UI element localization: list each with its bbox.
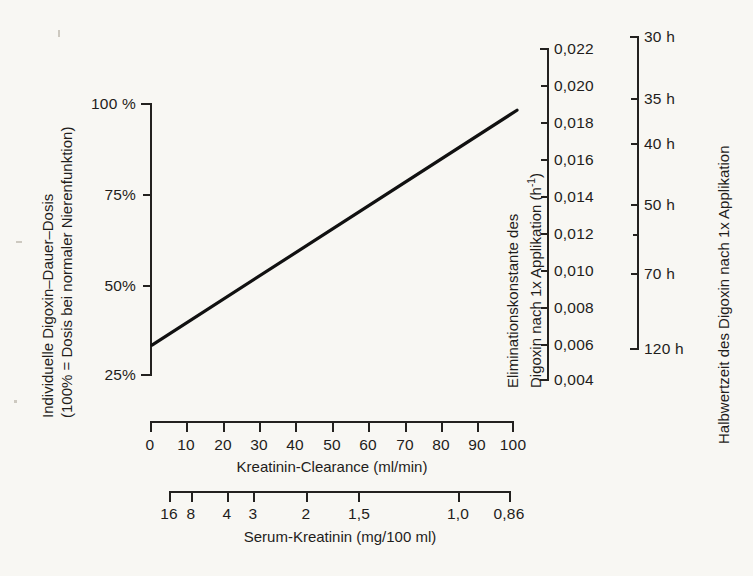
x-axis-serum-tick-16 [169, 491, 171, 502]
y-axis-elimination-title-line1: Eliminationskonstante des [503, 214, 522, 388]
y-axis-elimination-tick-0018 [541, 122, 549, 124]
x-axis-clearance-tick-60 [368, 423, 370, 432]
x-axis-clearance-label-80: 80 [421, 436, 461, 454]
y-axis-elimination-label-0004: 0,004 [554, 371, 594, 389]
y-axis-dose-title-line1: Individuelle Digoxin–Dauer–Dosis [39, 194, 56, 418]
x-axis-clearance-tick-10 [186, 423, 188, 432]
x-axis-serum-tick-4 [227, 493, 229, 502]
y-axis-halflife-line [637, 36, 639, 350]
x-axis-clearance-label-30: 30 [239, 436, 279, 454]
elimination-title-close-paren: ) [527, 173, 544, 178]
x-axis-clearance-label-50: 50 [312, 436, 352, 454]
x-axis-serum-title: Serum-Kreatinin (mg/100 ml) [160, 528, 520, 545]
x-axis-clearance-label-100: 100 [492, 436, 534, 454]
x-axis-serum-label-1-0: 1,0 [440, 505, 476, 523]
x-axis-clearance-tick-50 [332, 423, 334, 432]
y-axis-dose-tick-100 [141, 103, 152, 105]
y-axis-elimination-tick-0022 [540, 48, 549, 50]
y-axis-halflife-tick-30 [630, 36, 639, 38]
x-axis-clearance-tick-100 [512, 421, 514, 432]
x-axis-clearance-tick-0 [150, 421, 152, 432]
y-axis-dose-title: Individuelle Digoxin–Dauer–Dosis [38, 194, 57, 418]
scan-speck [16, 241, 22, 243]
y-axis-dose-tick-50 [143, 285, 152, 287]
y-axis-halflife-tick-50 [631, 204, 639, 206]
y-axis-dose-subtitle: (100% = Dosis bei normaler Nierenfunktio… [57, 127, 76, 418]
y-axis-dose-tick-75 [143, 194, 152, 196]
y-axis-halflife-tick-70 [631, 273, 639, 275]
x-axis-clearance-tick-70 [405, 423, 407, 432]
x-axis-clearance-label-90: 90 [457, 436, 497, 454]
x-axis-serum-tick-1-0 [458, 493, 460, 502]
y-axis-halflife-label-120: 120 h [644, 340, 684, 358]
y-axis-dose-line [150, 103, 152, 376]
x-axis-clearance-tick-30 [259, 423, 261, 432]
y-axis-halflife-label-50: 50 h [644, 196, 675, 214]
y-axis-elimination-tick-0016 [541, 159, 549, 161]
halflife-title-text: Halbwertzeit des Digoxin nach 1x Applika… [715, 146, 732, 445]
x-axis-clearance-tick-90 [477, 423, 479, 432]
y-axis-elimination-label-0018: 0,018 [554, 114, 594, 132]
x-axis-serum-tick-3 [253, 493, 255, 502]
x-axis-clearance-label-10: 10 [166, 436, 206, 454]
x-axis-serum-label-8: 8 [176, 505, 206, 523]
x-axis-serum-tick-2 [306, 493, 308, 502]
x-axis-serum-label-1-5: 1,5 [341, 505, 377, 523]
x-axis-clearance-title: Kreatinin-Clearance (ml/min) [150, 458, 514, 475]
y-axis-elimination-label-0022: 0,022 [554, 40, 594, 58]
y-axis-elimination-label-0008: 0,008 [554, 299, 594, 317]
x-axis-serum-tick-8 [191, 493, 193, 502]
y-axis-halflife-tick-unlabeled-60 [633, 234, 639, 236]
y-axis-elimination-label-0012: 0,012 [554, 225, 594, 243]
elimination-title-line1-text: Eliminationskonstante des [504, 214, 521, 388]
y-axis-elimination-label-0006: 0,006 [554, 336, 594, 354]
scan-speck [14, 400, 17, 403]
elimination-title-exponent: -1 [526, 178, 537, 187]
y-axis-dose-tick-25 [141, 374, 152, 376]
y-axis-dose-label-100: 100 % [78, 95, 136, 113]
y-axis-elimination-label-0010: 0,010 [554, 262, 594, 280]
x-axis-serum-tick-0-86 [509, 491, 511, 502]
x-axis-clearance-label-70: 70 [385, 436, 425, 454]
y-axis-dose-label-25: 25% [78, 366, 136, 384]
y-axis-elimination-label-0020: 0,020 [554, 77, 594, 95]
y-axis-halflife-title: Halbwertzeit des Digoxin nach 1x Applika… [714, 146, 733, 445]
chart-figure: 100 % 75% 50% 25% Individuelle Digoxin–D… [0, 0, 753, 576]
x-axis-serum-label-0-86: 0,86 [486, 505, 532, 523]
y-axis-halflife-label-35: 35 h [644, 90, 675, 108]
x-axis-serum-label-3: 3 [238, 505, 268, 523]
y-axis-elimination-tick-0020 [541, 85, 549, 87]
y-axis-elimination-line [547, 48, 549, 381]
scan-speck [58, 30, 60, 37]
y-axis-halflife-label-30: 30 h [644, 28, 675, 46]
x-axis-clearance-tick-40 [295, 423, 297, 432]
dose-clearance-line [152, 110, 517, 345]
y-axis-elimination-label-0014: 0,014 [554, 188, 594, 206]
x-axis-clearance-label-20: 20 [203, 436, 243, 454]
x-axis-serum-label-2: 2 [291, 505, 321, 523]
y-axis-halflife-tick-120 [630, 348, 639, 350]
y-axis-dose-title-line2: (100% = Dosis bei normaler Nierenfunktio… [58, 127, 75, 418]
x-axis-clearance-label-60: 60 [348, 436, 388, 454]
y-axis-halflife-label-70: 70 h [644, 265, 675, 283]
y-axis-dose-label-50: 50% [78, 277, 136, 295]
y-axis-halflife-tick-40 [631, 143, 639, 145]
x-axis-clearance-tick-80 [441, 423, 443, 432]
x-axis-clearance-label-0: 0 [130, 436, 170, 454]
y-axis-halflife-tick-35 [631, 98, 639, 100]
y-axis-elimination-title-line2: Digoxin nach 1x Applikation (h-1) [522, 173, 545, 388]
y-axis-halflife-label-40: 40 h [644, 135, 675, 153]
y-axis-dose-label-75: 75% [78, 186, 136, 204]
y-axis-elimination-label-0016: 0,016 [554, 151, 594, 169]
x-axis-clearance-tick-20 [223, 423, 225, 432]
elimination-title-line2-text: Digoxin nach 1x Applikation (h [527, 187, 544, 388]
x-axis-clearance-label-40: 40 [275, 436, 315, 454]
x-axis-serum-tick-1-5 [358, 493, 360, 502]
